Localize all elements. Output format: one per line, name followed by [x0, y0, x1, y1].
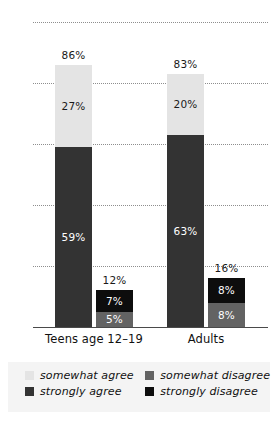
gridline [33, 22, 268, 23]
legend-label: somewhat agree [40, 369, 134, 382]
legend-item-somewhat-disagree[interactable]: somewhat disagree [145, 369, 270, 382]
bar-segment-label: 5% [106, 314, 123, 325]
bar-total-label: 83% [174, 58, 198, 70]
legend-item-somewhat-agree[interactable]: somewhat agree [25, 369, 145, 382]
legend-swatch-icon [25, 387, 34, 396]
bar-segment-label: 20% [174, 99, 198, 110]
bar-segment-label: 8% [218, 310, 235, 321]
legend-swatch-icon [145, 371, 154, 380]
legend-swatch-icon [25, 371, 34, 380]
bar-segment-label: 27% [62, 101, 86, 112]
bar-teens-age-12-19-agree: 86%27%59% [55, 65, 92, 327]
plot-area: 10080604020086%27%59%12%7%5%83%20%63%16%… [33, 22, 268, 327]
bar-segment-strongly-disagree: 8% [208, 278, 245, 302]
x-axis-baseline [33, 327, 268, 328]
bar-total-label: 12% [103, 274, 127, 286]
legend-label: strongly agree [40, 385, 122, 398]
legend-item-strongly-agree[interactable]: strongly agree [25, 385, 145, 398]
legend-label: somewhat disagree [160, 369, 270, 382]
bar-segment-somewhat-agree: 20% [167, 74, 204, 135]
legend-swatch-icon [145, 387, 154, 396]
bar-segment-label: 63% [174, 226, 198, 237]
bar-segment-somewhat-disagree: 5% [96, 312, 133, 327]
bar-segment-somewhat-agree: 27% [55, 65, 92, 147]
legend-item-strongly-disagree[interactable]: strongly disagree [145, 385, 270, 398]
bar-adults-agree: 83%20%63% [167, 74, 204, 327]
legend-label: strongly disagree [160, 385, 258, 398]
bar-total-label: 16% [215, 262, 239, 274]
bar-segment-label: 8% [218, 285, 235, 296]
stacked-bar-chart: 10080604020086%27%59%12%7%5%83%20%63%16%… [0, 0, 278, 425]
chart-legend: somewhat agreesomewhat disagreestrongly … [8, 362, 270, 412]
x-axis-label-adults: Adults [136, 332, 276, 346]
bar-segment-strongly-agree: 63% [167, 135, 204, 327]
bar-segment-label: 7% [106, 296, 123, 307]
bar-segment-label: 59% [62, 232, 86, 243]
legend-grid: somewhat agreesomewhat disagreestrongly … [8, 369, 270, 398]
bar-segment-somewhat-disagree: 8% [208, 303, 245, 327]
bar-total-label: 86% [62, 49, 86, 61]
bar-segment-strongly-agree: 59% [55, 147, 92, 327]
bar-teens-age-12-19-disagree: 12%7%5% [96, 290, 133, 327]
bar-segment-strongly-disagree: 7% [96, 290, 133, 311]
bar-adults-disagree: 16%8%8% [208, 278, 245, 327]
